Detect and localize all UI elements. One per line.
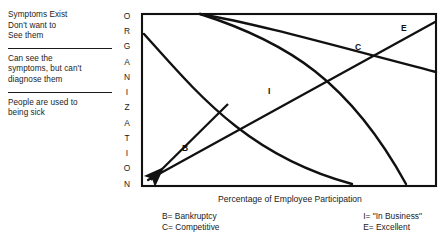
- y-axis-letter: G: [124, 42, 131, 50]
- curve-competitive: [200, 14, 406, 184]
- stage-line: Can see the: [8, 54, 116, 65]
- chart-svg: B I C E: [138, 8, 440, 194]
- y-axis-letter: A: [124, 119, 130, 127]
- line-in-business: [148, 22, 435, 180]
- curve-label-c: C: [355, 42, 361, 52]
- y-axis-letter: O: [124, 12, 131, 20]
- curve-label-b: B: [182, 143, 188, 153]
- legend-entry-excellent: E= Excellent: [363, 222, 422, 233]
- chart-legend: B= Bankruptcy C= Competitive I= "In Busi…: [140, 211, 440, 234]
- stage-divider: [8, 48, 112, 49]
- y-axis-letter: T: [124, 134, 129, 142]
- y-axis-letter: A: [124, 58, 130, 66]
- legend-entry-in-business: I= "In Business": [363, 211, 422, 222]
- y-axis-letter: N: [124, 73, 130, 81]
- stage-block-can-see-symptoms: Can see the symptoms, but can't diagnose…: [8, 54, 116, 86]
- stage-text-column: Symptoms Exist Don't want to See them Ca…: [8, 10, 116, 119]
- y-axis-letter: Z: [124, 103, 129, 111]
- y-axis-letter: I: [126, 88, 128, 96]
- stage-line: See them: [8, 31, 116, 42]
- legend-column-left: B= Bankruptcy C= Competitive: [140, 211, 219, 234]
- legend-entry-competitive: C= Competitive: [162, 222, 219, 233]
- stage-block-symptoms-exist: Symptoms Exist Don't want to See them: [8, 10, 116, 42]
- curve-label-e: E: [401, 23, 407, 33]
- stage-line: being sick: [8, 108, 116, 119]
- y-axis-label: O R G A N I Z A T I O N: [120, 12, 134, 188]
- stage-line: Symptoms Exist: [8, 10, 116, 21]
- curve-label-i: I: [268, 86, 270, 96]
- legend-column-right: I= "In Business" E= Excellent: [363, 211, 440, 234]
- y-axis-letter: N: [124, 180, 130, 188]
- y-axis-letter: O: [124, 164, 131, 172]
- curve-lower-decline: [144, 34, 352, 184]
- legend-entry-bankruptcy: B= Bankruptcy: [162, 211, 219, 222]
- y-axis-letter: I: [126, 149, 128, 157]
- chart-plot-area: B I C E: [138, 8, 440, 194]
- y-axis-letter: R: [124, 27, 130, 35]
- stage-line: symptoms, but can't: [8, 64, 116, 75]
- stage-divider: [8, 92, 112, 93]
- stage-block-used-to-being-sick: People are used to being sick: [8, 98, 116, 119]
- x-axis-title: Percentage of Employee Participation: [140, 194, 440, 204]
- stage-line: Don't want to: [8, 21, 116, 32]
- spacer: [144, 34, 230, 102]
- stage-line: diagnose them: [8, 75, 116, 86]
- stage-line: People are used to: [8, 98, 116, 109]
